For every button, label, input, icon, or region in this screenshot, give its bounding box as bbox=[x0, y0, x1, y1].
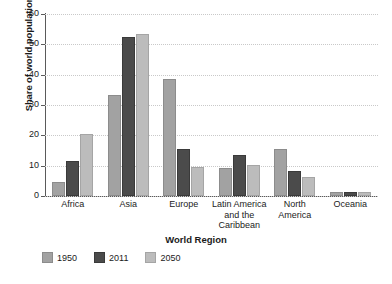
bar[interactable] bbox=[288, 171, 301, 196]
legend-label: 2011 bbox=[109, 253, 128, 263]
bar[interactable] bbox=[136, 34, 149, 196]
legend-swatch-icon bbox=[42, 252, 53, 263]
y-tick-label-30: 30 bbox=[9, 99, 39, 109]
x-category-label: Latin Americaand theCaribbean bbox=[212, 199, 268, 231]
bar-group bbox=[101, 14, 157, 196]
bar[interactable] bbox=[274, 149, 287, 196]
y-tick-label-20: 20 bbox=[9, 129, 39, 139]
bar[interactable] bbox=[52, 182, 65, 196]
y-tick-label-50: 50 bbox=[9, 38, 39, 48]
bar[interactable] bbox=[177, 149, 190, 196]
x-category-label-line: and the bbox=[212, 210, 268, 221]
caption-strip bbox=[0, 274, 392, 284]
x-category-label-line: Oceania bbox=[323, 199, 379, 210]
y-tick-label-40: 40 bbox=[9, 69, 39, 79]
bar[interactable] bbox=[302, 177, 315, 196]
x-axis-title: World Region bbox=[0, 234, 392, 245]
chart-figure: Share of world population (%) 0102030405… bbox=[0, 0, 392, 284]
x-category-label-line: North bbox=[267, 199, 323, 210]
bar-group bbox=[156, 14, 212, 196]
x-category-label-line: Europe bbox=[156, 199, 212, 210]
legend-item-1950[interactable]: 1950 bbox=[42, 252, 77, 263]
bar[interactable] bbox=[247, 165, 260, 196]
bar-group bbox=[45, 14, 101, 196]
bar[interactable] bbox=[358, 192, 371, 196]
y-tick-label-0: 0 bbox=[9, 190, 39, 200]
bar-group bbox=[212, 14, 268, 196]
legend-swatch-icon bbox=[145, 252, 156, 263]
bar[interactable] bbox=[163, 79, 176, 196]
x-category-label: Africa bbox=[45, 199, 101, 210]
bar[interactable] bbox=[66, 161, 79, 196]
x-category-label: Oceania bbox=[323, 199, 379, 210]
legend-item-2011[interactable]: 2011 bbox=[94, 252, 128, 263]
x-category-label-line: Asia bbox=[101, 199, 157, 210]
bar-group bbox=[267, 14, 323, 196]
x-category-label: Asia bbox=[101, 199, 157, 210]
legend-label: 1950 bbox=[57, 253, 77, 263]
x-category-label: Europe bbox=[156, 199, 212, 210]
x-category-label-line: Latin America bbox=[212, 199, 268, 210]
legend-swatch-icon bbox=[94, 252, 105, 263]
bar[interactable] bbox=[344, 192, 357, 196]
bar[interactable] bbox=[219, 168, 232, 196]
x-category-label-line: Africa bbox=[45, 199, 101, 210]
plot-area bbox=[45, 14, 378, 196]
bar[interactable] bbox=[122, 37, 135, 196]
chart-legend: 195020112050 bbox=[42, 252, 180, 263]
y-tick-label-10: 10 bbox=[9, 160, 39, 170]
y-tick-label-60: 60 bbox=[9, 8, 39, 18]
bar[interactable] bbox=[108, 95, 121, 196]
bar-group bbox=[323, 14, 379, 196]
bar[interactable] bbox=[80, 134, 93, 196]
bar[interactable] bbox=[233, 155, 246, 196]
x-category-label: NorthAmerica bbox=[267, 199, 323, 220]
legend-label: 2050 bbox=[160, 253, 180, 263]
legend-item-2050[interactable]: 2050 bbox=[145, 252, 180, 263]
bar[interactable] bbox=[330, 192, 343, 196]
gridline-0 bbox=[45, 196, 378, 198]
x-category-label-line: Caribbean bbox=[212, 220, 268, 231]
bar[interactable] bbox=[191, 167, 204, 196]
x-category-label-line: America bbox=[267, 210, 323, 221]
